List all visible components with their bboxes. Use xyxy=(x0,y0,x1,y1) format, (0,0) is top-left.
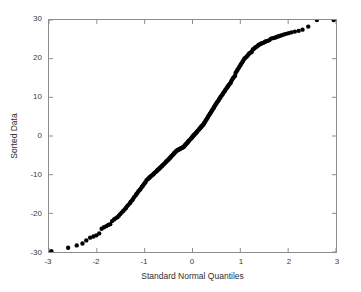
plot-canvas xyxy=(49,20,336,252)
qq-plot-figure: 30 20 10 0 -10 -20 -30 -3 -2 -1 0 1 2 3 … xyxy=(0,0,361,292)
ytick-label--20: -20 xyxy=(24,210,42,218)
x-axis-label: Standard Normal Quantiles xyxy=(48,271,337,281)
xtick-label--1: -1 xyxy=(140,258,147,266)
ytick-label--10: -10 xyxy=(24,171,42,179)
xtick-label-0: 0 xyxy=(190,258,194,266)
xtick-label-1: 1 xyxy=(239,258,243,266)
y-axis-label: Sorted Data xyxy=(9,113,19,158)
data-points xyxy=(49,20,336,252)
plot-area xyxy=(48,19,337,253)
xtick-label--2: -2 xyxy=(92,258,99,266)
xtick-label--3: -3 xyxy=(44,258,51,266)
ytick-label-0: 0 xyxy=(26,132,42,140)
ytick-label--30: -30 xyxy=(24,249,42,257)
xtick-label-3: 3 xyxy=(335,258,339,266)
ytick-label-30: 30 xyxy=(26,15,42,23)
ytick-label-10: 10 xyxy=(26,93,42,101)
ytick-label-20: 20 xyxy=(26,54,42,62)
xtick-label-2: 2 xyxy=(287,258,291,266)
